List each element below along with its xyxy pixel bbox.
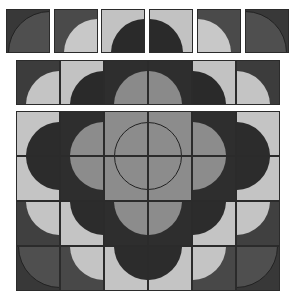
circle-segment-shape — [114, 156, 148, 190]
circle-segment-shape — [26, 156, 60, 190]
circle-segment-shape — [236, 71, 270, 105]
pattern-tile — [60, 156, 104, 201]
circle-segment-shape — [148, 201, 182, 235]
pattern-tile — [16, 60, 60, 105]
circle-segment-shape — [192, 201, 226, 235]
circle-segment-shape — [192, 71, 226, 105]
pattern-tile — [236, 201, 280, 246]
circle-segment-shape — [148, 71, 182, 105]
circle-segment-shape — [148, 246, 182, 280]
pattern-tile — [60, 201, 104, 246]
circle-segment-shape — [192, 246, 226, 280]
circle-segment-shape — [197, 19, 231, 53]
circle-segment-shape — [114, 201, 148, 235]
circle-segment-shape — [70, 156, 104, 190]
pattern-tile — [245, 9, 289, 53]
pattern-tile — [104, 201, 148, 246]
pattern-tile — [197, 9, 241, 53]
pattern-tile — [192, 201, 236, 246]
pattern-tile — [16, 201, 60, 246]
circle-segment-shape — [26, 201, 60, 235]
circle-segment-shape — [64, 19, 98, 53]
circle-segment-shape — [236, 201, 270, 235]
circle-segment-shape — [18, 246, 60, 288]
pattern-tile — [104, 60, 148, 105]
circle-segment-shape — [148, 156, 182, 190]
pattern-tile — [101, 9, 145, 53]
circle-segment-shape — [148, 122, 182, 156]
circle-segment-shape — [114, 246, 148, 280]
pattern-tile — [192, 60, 236, 105]
pattern-tile — [54, 9, 98, 53]
pattern-tile — [104, 111, 148, 156]
pattern-tile — [104, 156, 148, 201]
pattern-tile — [192, 111, 236, 156]
pattern-tile — [104, 246, 148, 291]
circle-segment-shape — [114, 122, 148, 156]
circle-segment-shape — [192, 156, 226, 190]
pattern-tile — [148, 201, 192, 246]
pattern-tile — [60, 246, 104, 291]
circle-segment-shape — [70, 71, 104, 105]
pattern-tile — [236, 111, 280, 156]
circle-segment-shape — [192, 122, 226, 156]
circle-segment-shape — [70, 201, 104, 235]
pattern-tile — [192, 246, 236, 291]
pattern-tile — [6, 9, 50, 53]
pattern-tile — [148, 156, 192, 201]
circle-segment-shape — [149, 19, 183, 53]
circle-segment-shape — [236, 156, 270, 190]
pattern-tile — [149, 9, 193, 53]
pattern-tile — [16, 111, 60, 156]
circle-segment-shape — [245, 11, 287, 53]
pattern-tile — [60, 60, 104, 105]
pattern-tile — [60, 111, 104, 156]
pattern-tile — [236, 246, 280, 291]
circle-segment-shape — [236, 122, 270, 156]
pattern-tile — [148, 60, 192, 105]
circle-segment-shape — [26, 71, 60, 105]
circle-segment-shape — [114, 71, 148, 105]
circle-segment-shape — [70, 122, 104, 156]
pattern-tile — [16, 156, 60, 201]
circle-segment-shape — [236, 246, 278, 288]
pattern-tile — [148, 111, 192, 156]
circle-segment-shape — [8, 11, 50, 53]
pattern-tile — [16, 246, 60, 291]
circle-segment-shape — [111, 19, 145, 53]
circle-segment-shape — [26, 122, 60, 156]
pattern-tile — [148, 246, 192, 291]
pattern-tile — [236, 60, 280, 105]
circle-segment-shape — [70, 246, 104, 280]
pattern-tile — [236, 156, 280, 201]
pattern-tile — [192, 156, 236, 201]
